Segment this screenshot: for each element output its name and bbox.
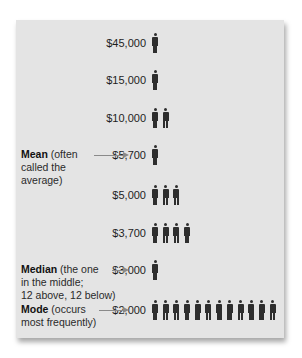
- mean-annotation: Mean (often called the average): [21, 148, 78, 187]
- person-icon: [182, 223, 193, 243]
- person-icon: [236, 300, 247, 320]
- value-label: $15,000: [86, 70, 146, 90]
- value-label: $5,000: [86, 185, 146, 205]
- mode-text-2: most frequently): [21, 316, 96, 329]
- person-icon: [203, 300, 214, 320]
- chart-panel: $45,000 $15,000 $10,000 $5,700 $5,000 $3…: [16, 20, 284, 338]
- person-icons: [150, 33, 161, 53]
- person-icon: [161, 108, 172, 128]
- person-icon: [171, 223, 182, 243]
- median-text-3: 12 above, 12 below): [21, 289, 116, 302]
- median-text-2: in the middle;: [21, 276, 116, 289]
- person-icon: [171, 185, 182, 205]
- value-label: $10,000: [86, 108, 146, 128]
- mean-text-1: (often: [48, 148, 78, 160]
- row-3700: $3,700: [16, 223, 284, 243]
- person-icon: [150, 70, 161, 90]
- person-icon: [182, 300, 193, 320]
- person-icon: [161, 300, 172, 320]
- person-icons: [150, 70, 161, 90]
- person-icon: [150, 145, 161, 165]
- person-icon: [246, 300, 257, 320]
- person-icon: [257, 300, 268, 320]
- person-icons: [150, 185, 182, 205]
- person-icon: [268, 300, 279, 320]
- person-icon: [161, 223, 172, 243]
- value-label: $45,000: [86, 33, 146, 53]
- median-arrow-icon: [112, 270, 124, 271]
- person-icon: [225, 300, 236, 320]
- person-icon: [150, 260, 161, 280]
- mode-label: Mode: [21, 303, 48, 315]
- row-45000: $45,000: [16, 33, 284, 53]
- person-icon: [150, 223, 161, 243]
- median-label: Median: [21, 263, 57, 275]
- mode-arrow-icon: [99, 310, 124, 311]
- value-label: $3,700: [86, 223, 146, 243]
- person-icon: [193, 300, 204, 320]
- person-icon: [214, 300, 225, 320]
- person-icons: [150, 260, 161, 280]
- mean-text-2: called the: [21, 161, 78, 174]
- person-icon: [150, 108, 161, 128]
- person-icon: [150, 300, 161, 320]
- person-icon: [150, 33, 161, 53]
- mean-text-3: average): [21, 174, 78, 187]
- person-icon: [150, 185, 161, 205]
- row-15000: $15,000: [16, 70, 284, 90]
- person-icon: [161, 185, 172, 205]
- row-5000: $5,000: [16, 185, 284, 205]
- mode-text-1: (occurs: [48, 303, 85, 315]
- person-icons: [150, 300, 278, 320]
- mean-arrow-icon: [94, 155, 124, 156]
- row-10000: $10,000: [16, 108, 284, 128]
- mode-annotation: Mode (occurs most frequently): [21, 303, 96, 329]
- median-annotation: Median (the one in the middle; 12 above,…: [21, 263, 116, 302]
- person-icons: [150, 145, 161, 165]
- person-icon: [171, 300, 182, 320]
- person-icons: [150, 108, 171, 128]
- person-icons: [150, 223, 193, 243]
- mean-label: Mean: [21, 148, 48, 160]
- median-text-1: (the one: [57, 263, 98, 275]
